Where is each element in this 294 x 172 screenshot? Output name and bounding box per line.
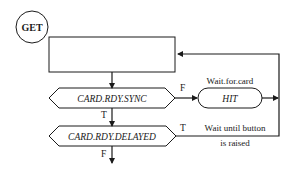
decision-delayed: CARD.RDY.DELAYED — [49, 126, 176, 146]
sync-false-label: F — [180, 83, 185, 93]
process-box — [49, 37, 175, 72]
delayed-false-label: F — [101, 149, 106, 159]
delayed-true-label: T — [180, 123, 186, 133]
decision-delayed-label: CARD.RDY.DELAYED — [68, 132, 156, 142]
flowchart: GET CARD.RDY.SYNC F HIT Wait.for.card T … — [0, 0, 294, 172]
start-node-label: GET — [21, 22, 42, 33]
wait-node: HIT — [198, 88, 262, 108]
loop-caption-line1: Wait until button — [205, 123, 266, 133]
start-node: GET — [16, 11, 48, 43]
wait-node-label: HIT — [221, 94, 238, 104]
loop-caption-line2: is raised — [220, 138, 250, 148]
decision-sync: CARD.RDY.SYNC — [49, 88, 175, 108]
wait-node-caption: Wait.for.card — [207, 76, 254, 86]
decision-sync-label: CARD.RDY.SYNC — [77, 94, 147, 104]
sync-true-label: T — [101, 110, 107, 120]
